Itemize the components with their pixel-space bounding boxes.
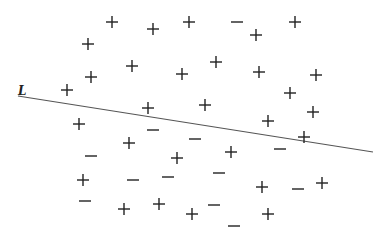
- plus-sign-icon: [289, 16, 301, 28]
- plus-sign-icon: [147, 23, 159, 35]
- plus-sign-icon: [106, 16, 118, 28]
- plus-sign-icon: [82, 38, 94, 50]
- plus-sign-icon: [186, 208, 198, 220]
- plus-sign-icon: [307, 106, 319, 118]
- plus-sign-icon: [171, 152, 183, 164]
- plus-sign-icon: [85, 71, 97, 83]
- plus-sign-icon: [153, 198, 165, 210]
- plus-sign-icon: [123, 137, 135, 149]
- plus-sign-icon: [199, 99, 211, 111]
- diagram-canvas: L: [0, 0, 388, 236]
- plus-sign-icon: [225, 146, 237, 158]
- plus-sign-icon: [284, 87, 296, 99]
- plus-sign-icon: [256, 181, 268, 193]
- plus-sign-icon: [262, 208, 274, 220]
- data-points: [61, 16, 328, 226]
- plus-sign-icon: [73, 118, 85, 130]
- plus-sign-icon: [142, 102, 154, 114]
- plus-sign-icon: [250, 29, 262, 41]
- plus-sign-icon: [262, 115, 274, 127]
- separating-line-l: [18, 96, 373, 152]
- plus-sign-icon: [210, 56, 222, 68]
- plus-sign-icon: [126, 60, 138, 72]
- plus-sign-icon: [310, 69, 322, 81]
- line-label: L: [18, 84, 26, 98]
- plus-sign-icon: [61, 84, 73, 96]
- plus-sign-icon: [316, 177, 328, 189]
- separating-line-plot: [0, 0, 388, 236]
- plus-sign-icon: [176, 68, 188, 80]
- plus-sign-icon: [77, 174, 89, 186]
- plus-sign-icon: [118, 203, 130, 215]
- plus-sign-icon: [183, 16, 195, 28]
- plus-sign-icon: [253, 66, 265, 78]
